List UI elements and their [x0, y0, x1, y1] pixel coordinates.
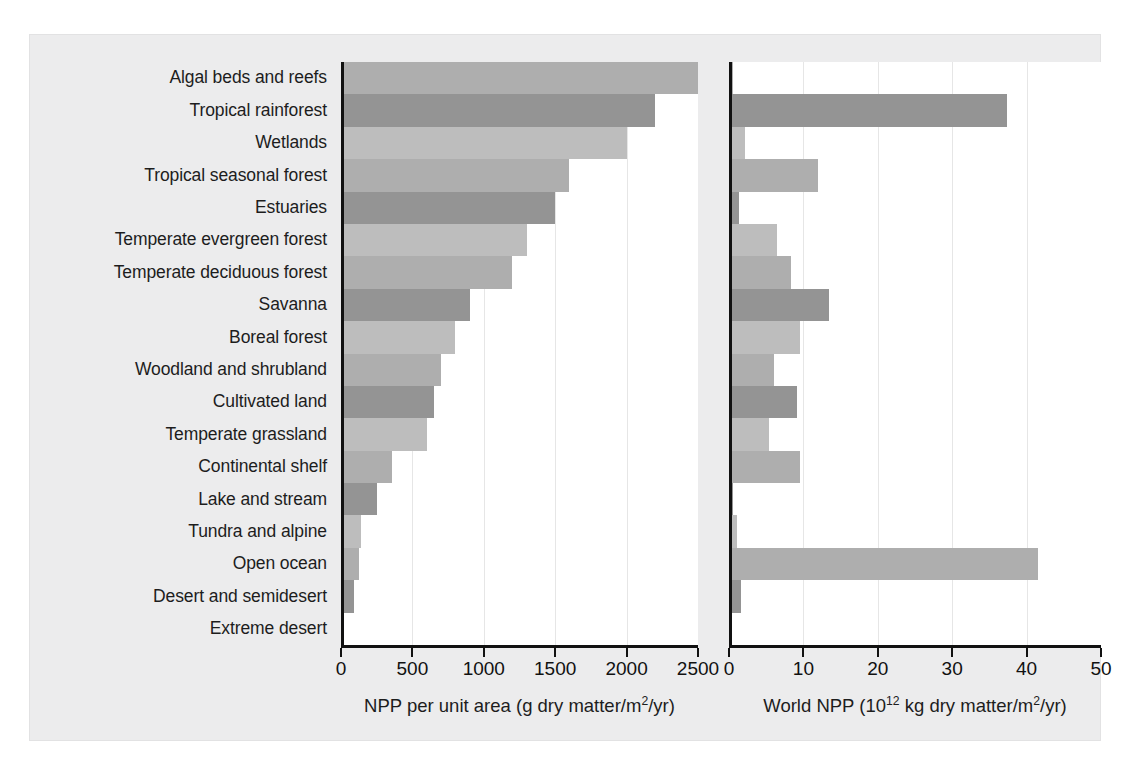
- bar: [341, 224, 527, 256]
- bar: [341, 321, 455, 353]
- bar-row: [341, 62, 698, 94]
- bar: [341, 127, 627, 159]
- right-chart-bars: [729, 62, 1101, 645]
- bar: [729, 386, 797, 418]
- category-label: Extreme desert: [30, 613, 335, 645]
- left-chart-x-axis: 05001000150020002500: [341, 645, 698, 679]
- bar: [729, 289, 829, 321]
- axis-tick-label: 0: [724, 658, 735, 680]
- right-axis-baseline: [729, 645, 1101, 648]
- bar-row: [729, 548, 1101, 580]
- bar-row: [341, 192, 698, 224]
- category-label: Tropical rainforest: [30, 94, 335, 126]
- axis-tick: [554, 648, 556, 657]
- axis-title-superscript-2: 2: [1033, 694, 1040, 708]
- bar-row: [341, 289, 698, 321]
- left-chart-plot-area: [341, 62, 698, 645]
- axis-title-text: NPP per unit area (g dry matter/m: [364, 695, 641, 716]
- category-label: Woodland and shrubland: [30, 354, 335, 386]
- bar-row: [341, 127, 698, 159]
- left-axis-baseline: [341, 645, 698, 648]
- bar-row: [341, 256, 698, 288]
- bar: [341, 62, 698, 94]
- bar: [341, 483, 377, 515]
- category-label: Tropical seasonal forest: [30, 159, 335, 191]
- bar-row: [729, 515, 1101, 547]
- axis-tick-label: 0: [336, 658, 347, 680]
- category-label: Temperate grassland: [30, 418, 335, 450]
- category-label: Algal beds and reefs: [30, 62, 335, 94]
- axis-tick: [877, 648, 879, 657]
- left-chart-x-axis-title: NPP per unit area (g dry matter/m2/yr): [341, 695, 698, 717]
- axis-tick-label: 30: [942, 658, 963, 680]
- axis-tick-label: 2500: [677, 658, 719, 680]
- bar-row: [729, 94, 1101, 126]
- category-label-column: Algal beds and reefsTropical rainforestW…: [30, 62, 335, 645]
- category-label: Wetlands: [30, 127, 335, 159]
- axis-tick-label: 1500: [534, 658, 576, 680]
- axis-tick-label: 10: [793, 658, 814, 680]
- bar: [729, 451, 800, 483]
- bar-row: [341, 418, 698, 450]
- bar-row: [341, 483, 698, 515]
- axis-title-tail: kg dry matter/m: [900, 695, 1034, 716]
- bar-row: [341, 159, 698, 191]
- category-label: Lake and stream: [30, 483, 335, 515]
- category-label: Desert and semidesert: [30, 580, 335, 612]
- bar-row: [341, 451, 698, 483]
- category-label: Temperate evergreen forest: [30, 224, 335, 256]
- bar: [341, 159, 569, 191]
- axis-tick-label: 50: [1090, 658, 1111, 680]
- category-label: Boreal forest: [30, 321, 335, 353]
- bar: [729, 256, 791, 288]
- bar-row: [729, 613, 1101, 645]
- axis-title-superscript: 12: [886, 694, 900, 708]
- bar: [341, 354, 441, 386]
- bar-row: [341, 94, 698, 126]
- bar: [729, 354, 774, 386]
- axis-title-text: World NPP (10: [763, 695, 886, 716]
- bar-row: [341, 548, 698, 580]
- bar-row: [729, 224, 1101, 256]
- category-label: Continental shelf: [30, 451, 335, 483]
- bar-row: [729, 418, 1101, 450]
- axis-tick-label: 2000: [605, 658, 647, 680]
- bar-row: [341, 321, 698, 353]
- category-label: Savanna: [30, 289, 335, 321]
- bar-row: [341, 580, 698, 612]
- figure-panel: Algal beds and reefsTropical rainforestW…: [30, 35, 1100, 740]
- bar-row: [729, 386, 1101, 418]
- axis-tick: [340, 648, 342, 657]
- axis-tick: [951, 648, 953, 657]
- right-chart-y-axis: [729, 62, 732, 645]
- right-chart-x-axis: 01020304050: [729, 645, 1101, 679]
- bar: [729, 94, 1007, 126]
- axis-tick: [802, 648, 804, 657]
- axis-tick-label: 500: [397, 658, 429, 680]
- bar-row: [729, 256, 1101, 288]
- bar-row: [729, 580, 1101, 612]
- bar: [341, 94, 655, 126]
- category-label: Tundra and alpine: [30, 515, 335, 547]
- bar: [341, 386, 434, 418]
- axis-tick: [626, 648, 628, 657]
- bar-row: [729, 62, 1101, 94]
- bar: [729, 418, 769, 450]
- axis-tick: [728, 648, 730, 657]
- bar: [729, 321, 800, 353]
- category-label: Cultivated land: [30, 386, 335, 418]
- bar: [341, 256, 512, 288]
- axis-title-tail-2: /yr): [1040, 695, 1067, 716]
- right-chart-x-axis-title: World NPP (1012 kg dry matter/m2/yr): [729, 695, 1101, 717]
- category-label: Temperate deciduous forest: [30, 256, 335, 288]
- bar: [729, 548, 1038, 580]
- bar-row: [729, 483, 1101, 515]
- bar: [729, 224, 777, 256]
- bar-row: [341, 354, 698, 386]
- axis-tick: [483, 648, 485, 657]
- axis-tick-label: 20: [867, 658, 888, 680]
- bar-row: [341, 224, 698, 256]
- bar-row: [729, 354, 1101, 386]
- axis-tick: [1026, 648, 1028, 657]
- bar: [341, 289, 470, 321]
